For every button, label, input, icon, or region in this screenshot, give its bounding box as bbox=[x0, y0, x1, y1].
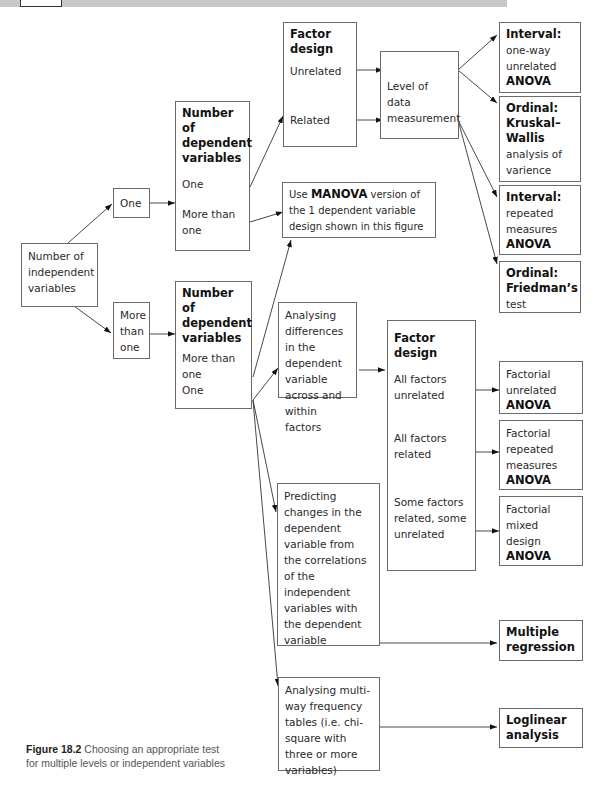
factor-design-top-node: Factor design Unrelated Related bbox=[283, 22, 357, 147]
dv-top-node: Number of dependent variables One More t… bbox=[175, 101, 250, 251]
iv-more-than-one-node: More than one bbox=[113, 302, 150, 359]
analysing-differences-node: Analysing differences in the dependent v… bbox=[278, 302, 357, 398]
figure-caption: Figure 18.2 Choosing an appropriate test… bbox=[26, 742, 226, 770]
result-ordinal-kruskal-wallis: Ordinal: Kruskal–Wallis analysis of vari… bbox=[499, 96, 581, 182]
factor-design-bottom-node: Factor design All factors unrelated All … bbox=[387, 320, 476, 571]
level-of-data-measurement-node: Level of data measurement bbox=[380, 51, 459, 139]
loglinear-analysis-result: Loglinear analysis bbox=[499, 708, 583, 748]
multiple-regression-result: Multiple regression bbox=[499, 620, 583, 661]
result-ordinal-friedman: Ordinal: Friedman’s test bbox=[499, 261, 581, 313]
factorial-mixed-design-anova: Factorial mixed design ANOVA bbox=[499, 496, 583, 566]
factorial-repeated-measures-anova: Factorial repeated measures ANOVA bbox=[499, 420, 583, 490]
number-of-independent-variables-node: Number of independent variables bbox=[21, 243, 98, 307]
dv-bottom-node: Number of dependent variables More than … bbox=[175, 281, 252, 409]
factorial-unrelated-anova: Factorial unrelated ANOVA bbox=[499, 361, 583, 414]
analysing-multiway-node: Analysing multi-way frequency tables (i.… bbox=[278, 677, 380, 771]
result-interval-repeated-anova: Interval: repeated measures ANOVA bbox=[499, 185, 581, 255]
manova-node: Use MANOVA version of the 1 dependent va… bbox=[282, 182, 436, 238]
iv-one-node: One bbox=[113, 188, 150, 218]
predicting-changes-node: Predicting changes in the dependent vari… bbox=[277, 483, 380, 646]
result-interval-oneway-anova: Interval: one-way unrelated ANOVA bbox=[499, 22, 581, 93]
